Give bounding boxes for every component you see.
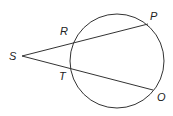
secant-so bbox=[22, 56, 153, 90]
secant-diagram: S R P T O bbox=[0, 0, 173, 116]
secant-sp bbox=[22, 24, 148, 56]
label-p: P bbox=[150, 10, 158, 22]
label-s: S bbox=[9, 50, 17, 62]
label-t: T bbox=[59, 70, 67, 82]
circle bbox=[70, 14, 164, 108]
diagram-canvas: S R P T O bbox=[0, 0, 173, 116]
label-r: R bbox=[60, 25, 68, 37]
label-o: O bbox=[157, 91, 166, 103]
